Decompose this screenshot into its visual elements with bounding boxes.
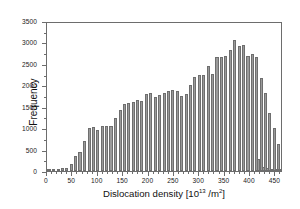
x-minor-tick-mark [82,172,83,174]
histogram-bar-tail [266,168,269,171]
x-minor-tick-mark [137,172,138,174]
histogram-bar [189,85,192,171]
x-tick-mark [173,172,174,176]
histogram-bar [246,56,249,171]
histogram-bar [61,168,64,171]
x-tick-mark [224,172,225,176]
histogram-bar [185,94,188,171]
x-minor-tick-mark [193,172,194,174]
histogram-bar [140,101,143,171]
histogram-bar [180,96,183,171]
x-axis-title-main: Dislocation density [10 [103,188,199,199]
y-minor-tick-mark [44,76,46,77]
histogram-bar [154,97,157,171]
y-tick-label: 3000 [22,40,37,47]
histogram-bar [149,93,152,171]
histogram-bar [260,78,263,171]
x-minor-tick-mark [279,172,280,174]
histogram-bar [202,75,205,171]
y-minor-tick-mark [44,161,46,162]
histogram-bar [163,93,166,171]
x-minor-tick-mark [102,172,103,174]
x-tick-mark [122,172,123,176]
histogram-bar [171,90,174,171]
histogram-bar [233,40,236,171]
x-minor-tick-mark [254,172,255,174]
x-tick-mark [274,172,275,176]
histogram-bar [105,126,108,171]
histogram-bar [158,95,161,171]
x-tick-mark [46,172,47,176]
y-tick-label: 0 [33,169,37,176]
x-tick-mark [71,172,72,176]
histogram-bar [119,110,122,171]
x-minor-tick-mark [117,172,118,174]
x-minor-tick-mark [178,172,179,174]
x-minor-tick-mark [239,172,240,174]
histogram-bar [176,91,179,171]
y-tick-mark [42,129,46,130]
x-minor-tick-mark [56,172,57,174]
histogram-bar [52,169,55,171]
x-tick-label: 200 [142,178,153,185]
x-minor-tick-mark [213,172,214,174]
x-minor-tick-mark [153,172,154,174]
histogram-bar [123,104,126,171]
histogram-bar-tail [270,169,273,171]
x-minor-tick-mark [229,172,230,174]
x-minor-tick-mark [127,172,128,174]
y-minor-tick-mark [44,140,46,141]
y-axis-title: Frequency [29,47,39,157]
x-tick-label: 0 [44,178,48,185]
histogram-bar [242,45,245,171]
histogram-bar [215,57,218,171]
x-minor-tick-mark [163,172,164,174]
x-tick-label: 400 [243,178,254,185]
x-minor-tick-mark [203,172,204,174]
x-minor-tick-mark [183,172,184,174]
y-minor-tick-mark [44,118,46,119]
x-tick-label: 300 [193,178,204,185]
histogram-bar [127,103,130,171]
histogram-figure: 0500100015002000250030003500 05010015020… [0,0,300,209]
histogram-bar [65,168,68,171]
x-minor-tick-mark [107,172,108,174]
x-minor-tick-mark [142,172,143,174]
histogram-bar [268,113,271,171]
histogram-bar [57,169,60,171]
histogram-bar [229,50,232,171]
x-minor-tick-mark [132,172,133,174]
histogram-bar [70,164,73,171]
x-tick-label: 100 [91,178,102,185]
y-minor-tick-mark [44,97,46,98]
y-minor-tick-mark [44,54,46,55]
x-axis-title-exponent: 13 [199,188,206,194]
histogram-bar [264,93,267,171]
histogram-bar [96,130,99,171]
histogram-bar [114,118,117,171]
histogram-bar [277,144,280,171]
x-minor-tick-mark [87,172,88,174]
histogram-bar [224,56,227,171]
histogram-bar [109,126,112,171]
histogram-bar [198,75,201,171]
x-minor-tick-mark [219,172,220,174]
x-minor-tick-mark [208,172,209,174]
x-tick-mark [249,172,250,176]
x-minor-tick-mark [234,172,235,174]
bar-series [47,23,281,171]
histogram-bar [167,91,170,171]
x-tick-label: 150 [116,178,127,185]
x-tick-label: 350 [218,178,229,185]
y-axis: 0500100015002000250030003500 [0,22,46,172]
histogram-bar [101,126,104,171]
histogram-bar-tail [278,169,281,171]
x-minor-tick-mark [92,172,93,174]
x-tick-label: 250 [167,178,178,185]
x-axis-title: Dislocation density [1013 /m2] [46,188,282,199]
x-minor-tick-mark [76,172,77,174]
y-tick-mark [42,22,46,23]
x-minor-tick-mark [244,172,245,174]
y-tick-mark [42,86,46,87]
x-minor-tick-mark [188,172,189,174]
